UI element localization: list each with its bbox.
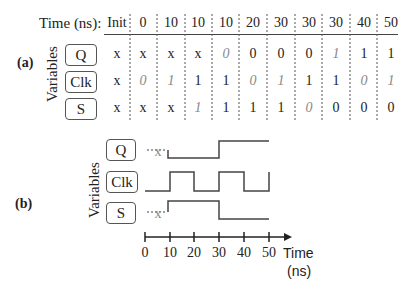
tick-0: 0 <box>134 245 156 261</box>
time-axis-unit: (ns) <box>287 263 311 279</box>
waveform-diagram <box>0 0 406 287</box>
clk-waveform <box>145 172 269 191</box>
s-unknown-label: x <box>145 206 171 222</box>
tick-50: 50 <box>258 245 280 261</box>
q-unknown-label: x <box>145 144 171 160</box>
tick-20: 20 <box>183 245 205 261</box>
tick-10: 10 <box>159 245 181 261</box>
column-separators <box>130 14 377 122</box>
tick-30: 30 <box>208 245 230 261</box>
axis-arrowhead <box>284 233 292 241</box>
time-axis <box>145 232 288 242</box>
time-axis-label: Time <box>283 245 314 261</box>
tick-40: 40 <box>233 245 255 261</box>
